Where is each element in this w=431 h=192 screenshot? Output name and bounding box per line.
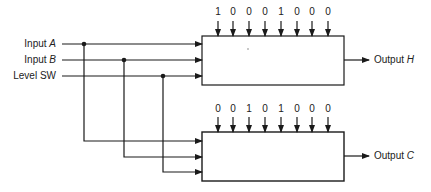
bottom-bit: 0 xyxy=(259,103,271,115)
input-a-branch xyxy=(84,44,202,141)
bottom-bit: 0 xyxy=(227,103,239,115)
output-h-label: Output H xyxy=(374,54,414,66)
circuit-diagram xyxy=(0,0,431,192)
bottom-bit: 1 xyxy=(275,103,287,115)
top-bit: 0 xyxy=(322,6,334,18)
top-bit: 1 xyxy=(275,6,287,18)
output-c-label: Output C xyxy=(374,150,414,162)
input-b-label: Input B xyxy=(24,54,56,66)
top-comparator-block xyxy=(202,36,344,85)
bottom-bit: 0 xyxy=(322,103,334,115)
bottom-bit: 0 xyxy=(212,103,224,115)
top-bit: 1 xyxy=(212,6,224,18)
top-bit: 0 xyxy=(291,6,303,18)
bottom-comparator-block xyxy=(202,132,344,181)
input-a-label: Input A xyxy=(24,38,56,50)
top-bit: 0 xyxy=(227,6,239,18)
top-bit: 0 xyxy=(306,6,318,18)
bottom-bit-arrows xyxy=(218,117,328,132)
top-bit: 0 xyxy=(243,6,255,18)
top-bit-arrows xyxy=(218,21,328,36)
level-sw-label: Level SW xyxy=(13,70,56,82)
top-bit: 0 xyxy=(259,6,271,18)
junction-dot-b xyxy=(122,58,127,63)
bottom-bit: 1 xyxy=(243,103,255,115)
bottom-bit: 0 xyxy=(306,103,318,115)
bottom-bit: 0 xyxy=(291,103,303,115)
junction-dot-a xyxy=(82,42,87,47)
junction-dot-sw xyxy=(161,74,166,79)
